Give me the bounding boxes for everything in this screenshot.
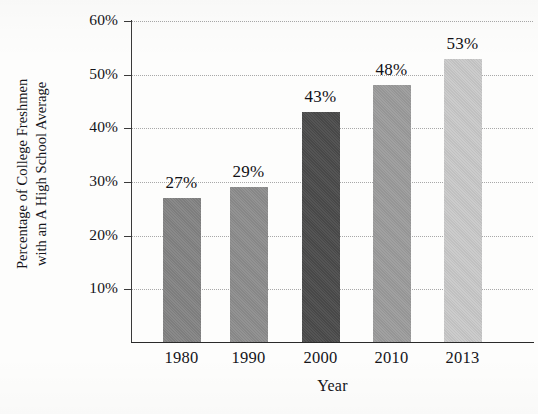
y-tick-60	[124, 21, 132, 22]
y-tick-label-60: 60%	[56, 11, 118, 29]
x-axis-title: Year	[131, 377, 534, 395]
y-tick-50	[124, 75, 132, 76]
y-tick-label-30: 30%	[56, 172, 118, 190]
bar-1990	[230, 187, 268, 343]
y-tick-20	[124, 236, 132, 237]
x-tick-label-1980: 1980	[148, 348, 216, 368]
bar-1980	[163, 198, 201, 343]
y-tick-10	[124, 289, 132, 290]
y-tick-label-10: 10%	[56, 279, 118, 297]
bar-value-2013: 53%	[429, 34, 497, 54]
y-axis-tick-labels: 10%20%30%40%50%60%	[56, 0, 118, 414]
chart-title-cropped	[150, 0, 410, 3]
y-axis-title: Percentage of College Freshmen with an A…	[0, 0, 64, 348]
bar-value-2010: 48%	[358, 60, 426, 80]
y-tick-label-50: 50%	[56, 65, 118, 83]
x-tick-label-2000: 2000	[287, 348, 355, 368]
x-axis-spine	[131, 342, 534, 343]
y-axis-title-line-1: Percentage of College Freshmen	[13, 79, 32, 269]
bar-value-1990: 29%	[215, 162, 283, 182]
bar-value-1980: 27%	[148, 173, 216, 193]
y-tick-30	[124, 182, 132, 183]
y-tick-label-20: 20%	[56, 226, 118, 244]
chart-screenshot: Percentage of College Freshmen with an A…	[0, 0, 538, 414]
y-axis-title-line-2: with an A High School Average	[32, 79, 51, 269]
x-tick-label-2010: 2010	[358, 348, 426, 368]
bar-2010	[373, 85, 411, 343]
x-tick-label-2013: 2013	[429, 348, 497, 368]
x-tick-label-1990: 1990	[215, 348, 283, 368]
x-axis-tick-labels: 19801990200020102013	[131, 348, 534, 374]
y-tick-40	[124, 128, 132, 129]
bar-2000	[302, 112, 340, 343]
bar-2013	[444, 59, 482, 343]
y-tick-label-40: 40%	[56, 118, 118, 136]
bar-value-2000: 43%	[287, 87, 355, 107]
